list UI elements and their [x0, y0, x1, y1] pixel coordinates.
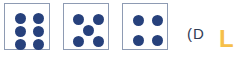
die-four-face [125, 6, 165, 47]
pip [83, 25, 94, 36]
pip [73, 14, 84, 25]
pip [33, 13, 44, 24]
pip [152, 15, 163, 26]
die-six [4, 3, 50, 50]
die-four [122, 3, 168, 50]
pip [133, 15, 144, 26]
accent-letter-glyph: L [219, 27, 234, 51]
pip [33, 26, 44, 37]
die-five [63, 3, 109, 50]
pip [133, 35, 144, 46]
pip [15, 13, 26, 24]
pip [73, 36, 84, 47]
pip [93, 14, 104, 25]
die-five-face [66, 6, 106, 47]
dice-illustration: (D L [0, 0, 240, 59]
pip [15, 39, 26, 50]
pip [152, 35, 163, 46]
caption-fragment: (D [187, 26, 205, 41]
pip [33, 39, 44, 50]
pip [15, 26, 26, 37]
pip [93, 36, 104, 47]
die-six-face [7, 6, 47, 47]
